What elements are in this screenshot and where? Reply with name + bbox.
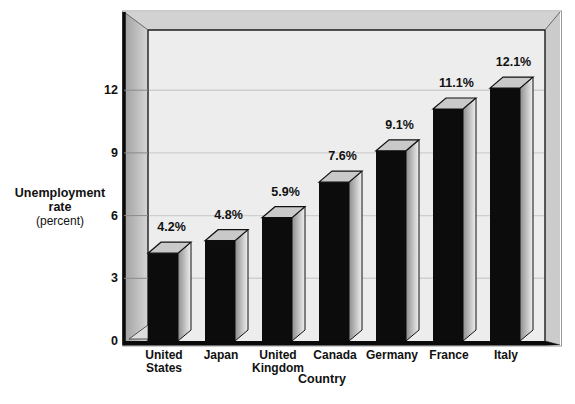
ytick-label-12: 12 <box>84 83 118 97</box>
bar-side-0 <box>178 242 191 341</box>
frame-right-band <box>545 12 560 345</box>
value-label-1: 4.8% <box>197 208 261 222</box>
bar-side-3 <box>349 171 362 341</box>
bar-side-1 <box>235 230 248 341</box>
bar-front-5 <box>433 109 463 341</box>
frame-left-band <box>124 12 148 345</box>
bar-side-4 <box>406 140 419 341</box>
bar-side-2 <box>292 207 305 341</box>
bar-side-6 <box>520 77 533 341</box>
value-label-5: 11.1% <box>425 76 489 90</box>
ytick-label-3: 3 <box>84 271 118 285</box>
bar-side-5 <box>463 98 476 341</box>
unemployment-bar-chart-figure: Unemployment rate (percent) Country 0369… <box>0 0 575 404</box>
value-label-6: 12.1% <box>482 55 546 69</box>
ytick-label-0: 0 <box>84 334 118 348</box>
bar-front-1 <box>205 241 235 341</box>
ytick-label-9: 9 <box>84 146 118 160</box>
ytick-label-6: 6 <box>84 209 118 223</box>
value-label-3: 7.6% <box>311 149 375 163</box>
category-label-6: Italy <box>470 349 542 362</box>
value-label-2: 5.9% <box>254 185 318 199</box>
frame-top-band <box>124 12 560 30</box>
bar-front-2 <box>262 218 292 341</box>
value-label-0: 4.2% <box>140 220 204 234</box>
x-axis-baseline <box>123 341 545 346</box>
bar-front-6 <box>490 88 520 341</box>
y-axis-title-line1: Unemployment <box>4 186 116 200</box>
value-label-4: 9.1% <box>368 118 432 132</box>
bar-front-0 <box>148 253 178 341</box>
bar-front-3 <box>319 182 349 341</box>
bar-front-4 <box>376 151 406 341</box>
